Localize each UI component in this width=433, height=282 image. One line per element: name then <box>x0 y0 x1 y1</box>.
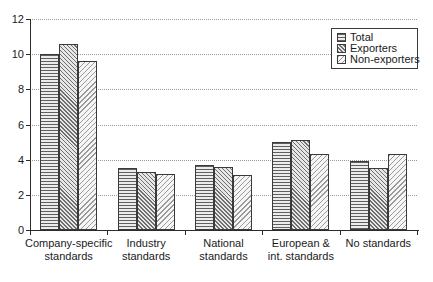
bar-non-exporters-3 <box>233 175 252 230</box>
x-axis-line <box>30 230 419 231</box>
bar-total-3 <box>195 165 214 230</box>
non-exporters-swatch-icon <box>337 55 346 64</box>
gridline-y12 <box>30 19 417 20</box>
category-label-line: No standards <box>330 237 426 250</box>
x-tick-mark-2 <box>185 231 186 235</box>
y-tick-label-2: 2 <box>0 190 24 201</box>
bar-total-2 <box>118 168 137 230</box>
bar-non-exporters-4 <box>310 154 329 230</box>
exporters-swatch-icon <box>337 44 346 53</box>
y-tick-mark-4 <box>26 160 30 161</box>
y-tick-label-0: 0 <box>0 225 24 236</box>
bar-non-exporters-2 <box>156 174 175 230</box>
y-tick-mark-8 <box>26 89 30 90</box>
y-tick-label-12: 12 <box>0 14 24 25</box>
bar-exporters-5 <box>369 168 388 230</box>
y-tick-label-6: 6 <box>0 120 24 131</box>
y-tick-mark-10 <box>26 54 30 55</box>
bar-exporters-3 <box>214 167 233 230</box>
x-tick-mark-3 <box>262 231 263 235</box>
bar-non-exporters-1 <box>78 61 97 230</box>
category-label-5: No standards <box>330 237 426 250</box>
bar-total-1 <box>40 54 59 230</box>
bar-non-exporters-5 <box>388 154 407 230</box>
bar-total-4 <box>272 142 291 230</box>
bar-exporters-1 <box>59 44 78 230</box>
y-tick-label-4: 4 <box>0 155 24 166</box>
legend-item-non-exporters: Non-exporters <box>337 54 413 65</box>
total-swatch-icon <box>337 33 346 42</box>
y-tick-label-8: 8 <box>0 84 24 95</box>
bar-chart-figure: 024681012 Company-specificstandardsIndus… <box>0 0 433 282</box>
y-axis-line <box>30 19 31 231</box>
x-tick-mark-0 <box>30 231 31 235</box>
y-tick-label-10: 10 <box>0 49 24 60</box>
bar-exporters-4 <box>291 140 310 230</box>
bar-exporters-2 <box>137 172 156 230</box>
category-label-line: int. standards <box>253 250 349 263</box>
x-tick-mark-5 <box>417 231 418 235</box>
y-tick-mark-6 <box>26 125 30 126</box>
y-tick-mark-12 <box>26 19 30 20</box>
legend: Total Exporters Non-exporters <box>331 28 418 69</box>
x-tick-mark-4 <box>340 231 341 235</box>
x-tick-mark-1 <box>107 231 108 235</box>
legend-label-non-exporters: Non-exporters <box>350 54 420 65</box>
y-tick-mark-2 <box>26 195 30 196</box>
bar-total-5 <box>350 161 369 230</box>
